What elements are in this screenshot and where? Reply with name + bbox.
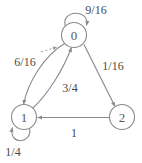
node-2-label: 2 bbox=[119, 111, 126, 124]
node-1-label: 1 bbox=[21, 111, 28, 124]
edge-label-2-to-1: 1 bbox=[71, 127, 77, 139]
edge-label-0-to-1: 6/16 bbox=[14, 56, 35, 68]
edge-label-1-to-1: 1/4 bbox=[5, 146, 20, 158]
edge-0-to-2-straight bbox=[84, 45, 115, 107]
edge-1-to-0-curve bbox=[33, 48, 72, 109]
diagram-canvas: 0 1 2 9/16 6/16 3/4 1/16 1 1/4 bbox=[0, 0, 142, 163]
node-0-label: 0 bbox=[71, 29, 78, 42]
edge-label-1-to-0: 3/4 bbox=[62, 82, 77, 94]
edge-label-0-to-0: 9/16 bbox=[85, 4, 106, 16]
edge-label-0-to-2: 1/16 bbox=[102, 60, 123, 72]
